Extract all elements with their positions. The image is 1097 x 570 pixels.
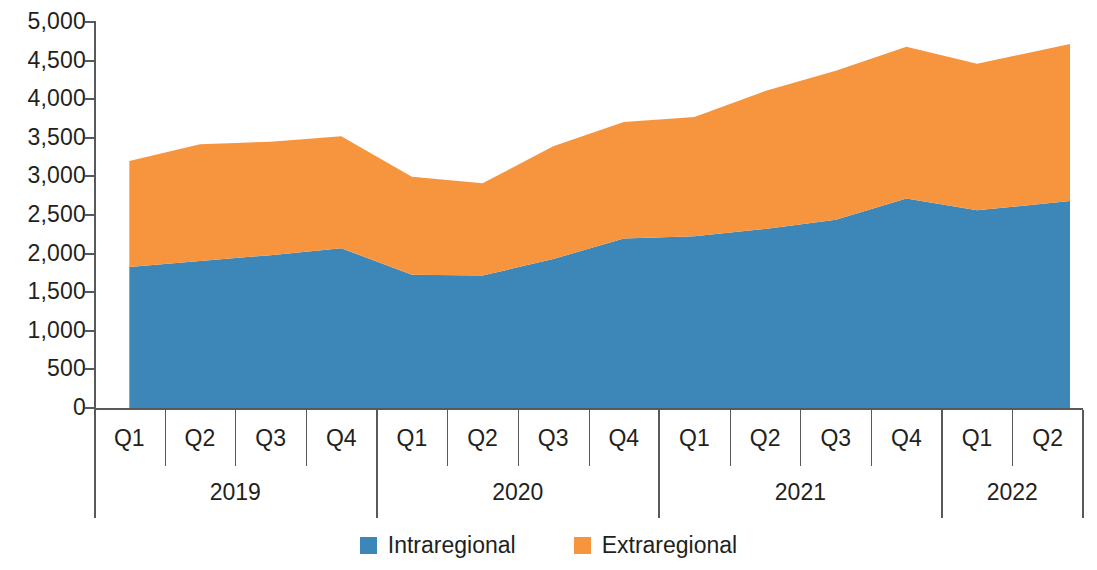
x-axis-band-edge [1082, 410, 1084, 518]
x-axis-band-edge [94, 410, 96, 518]
x-axis-quarter-label: Q3 [518, 410, 589, 466]
y-axis-tick [85, 175, 94, 177]
legend-swatch-extraregional [574, 537, 591, 554]
y-axis-tick-label: 500 [0, 357, 86, 380]
y-axis-tick [85, 98, 94, 100]
y-axis-tick [85, 253, 94, 255]
area-series-group [94, 22, 1083, 408]
x-axis-quarter-label: Q2 [730, 410, 801, 466]
legend-swatch-intraregional [360, 537, 377, 554]
legend-label: Intraregional [388, 534, 516, 557]
y-axis-tick-label: 3,000 [0, 164, 86, 187]
x-axis-year-label: 2022 [942, 466, 1083, 518]
y-axis-labels: 5,0004,5004,0003,5003,0002,5002,0001,500… [0, 0, 86, 430]
x-axis-year-label: 2019 [94, 466, 377, 518]
y-axis-tick-label: 0 [0, 396, 86, 419]
x-axis-quarter-divider [730, 410, 731, 466]
x-axis-quarter-label: Q4 [589, 410, 660, 466]
x-axis-quarter-label: Q1 [377, 410, 448, 466]
x-axis-quarter-label: Q4 [306, 410, 377, 466]
legend-item[interactable]: Extraregional [574, 534, 738, 557]
x-axis-quarter-divider [235, 410, 236, 466]
x-axis-quarter-label: Q4 [871, 410, 942, 466]
x-axis-quarter-label: Q1 [94, 410, 165, 466]
y-axis-tick-label: 4,000 [0, 87, 86, 110]
y-axis-tick-label: 2,000 [0, 242, 86, 265]
x-axis-year-label: 2021 [659, 466, 942, 518]
x-axis-year-label: 2020 [377, 466, 660, 518]
y-axis-tick [85, 368, 94, 370]
y-axis-tick [85, 407, 94, 409]
x-axis-quarter-divider [800, 410, 801, 466]
x-axis-quarter-label: Q2 [1012, 410, 1083, 466]
y-axis-tick-label: 3,500 [0, 126, 86, 149]
y-axis-tick [85, 137, 94, 139]
y-axis-tick [85, 21, 94, 23]
x-axis-quarter-divider [518, 410, 519, 466]
quarter-label-row: Q1Q2Q3Q4Q1Q2Q3Q4Q1Q2Q3Q4Q1Q2 [94, 410, 1083, 466]
x-axis-quarter-divider [165, 410, 166, 466]
x-axis-quarter-label: Q2 [447, 410, 518, 466]
x-axis-quarter-divider [1012, 410, 1013, 466]
x-axis-year-divider [658, 410, 660, 518]
x-axis-year-divider [376, 410, 378, 518]
x-axis-quarter-label: Q1 [942, 410, 1013, 466]
x-axis-quarter-label: Q3 [800, 410, 871, 466]
stacked-area-chart: 5,0004,5004,0003,5003,0002,5002,0001,500… [0, 0, 1097, 570]
y-axis-tick-label: 5,000 [0, 10, 86, 33]
x-axis-year-divider [941, 410, 943, 518]
x-axis-quarter-divider [589, 410, 590, 466]
x-axis-quarter-divider [871, 410, 872, 466]
x-axis-quarter-label: Q3 [235, 410, 306, 466]
x-axis-quarter-label: Q2 [165, 410, 236, 466]
legend-label: Extraregional [602, 534, 738, 557]
y-axis-tick-label: 2,500 [0, 203, 86, 226]
y-axis-tick [85, 214, 94, 216]
y-axis-tick-label: 4,500 [0, 49, 86, 72]
legend-item[interactable]: Intraregional [360, 534, 516, 557]
y-axis-tick [85, 330, 94, 332]
x-axis-quarter-divider [306, 410, 307, 466]
y-axis-tick-label: 1,000 [0, 319, 86, 342]
y-axis-tick [85, 291, 94, 293]
chart-legend: IntraregionalExtraregional [0, 528, 1097, 562]
y-axis-tick [85, 60, 94, 62]
x-axis-quarter-label: Q1 [659, 410, 730, 466]
x-axis-quarter-divider [447, 410, 448, 466]
year-label-row: 2019202020212022 [94, 466, 1083, 518]
y-axis-tick-label: 1,500 [0, 280, 86, 303]
